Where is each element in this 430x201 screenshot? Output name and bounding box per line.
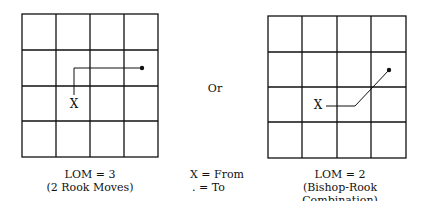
- right-caption-desc: (Bishop-Rook Combination): [270, 181, 410, 201]
- left-from-marker: X: [66, 98, 82, 111]
- left-rook-path: [74, 68, 142, 95]
- left-caption: LOM = 3 (2 Rook Moves): [30, 168, 150, 194]
- legend-to: . = To: [190, 181, 260, 194]
- left-to-dot: [140, 66, 144, 70]
- left-caption-desc: (2 Rook Moves): [30, 181, 150, 194]
- right-to-dot: [387, 68, 391, 72]
- right-caption: LOM = 2 (Bishop-Rook Combination): [270, 168, 410, 201]
- right-grid: [268, 16, 406, 158]
- right-bishop-rook-path: [326, 70, 389, 106]
- or-label: Or: [200, 82, 230, 95]
- right-caption-lom: LOM = 2: [270, 168, 410, 181]
- right-from-marker: X: [310, 99, 326, 112]
- legend-from: X = From: [190, 168, 260, 181]
- left-grid: [22, 14, 158, 157]
- legend: X = From . = To: [190, 168, 260, 194]
- left-caption-lom: LOM = 3: [30, 168, 150, 181]
- lom-diagram: X X Or LOM = 3 (2 Rook Moves) X = From .…: [0, 0, 430, 201]
